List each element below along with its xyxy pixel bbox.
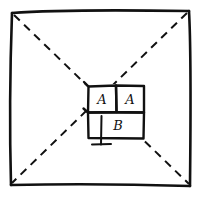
cell-a-left-label: A bbox=[96, 92, 106, 107]
sketch-canvas: A A B bbox=[0, 0, 201, 199]
outer-frame-bottom-edge bbox=[11, 184, 190, 186]
cell-a-right-label: A bbox=[124, 92, 134, 107]
outer-frame-top-edge bbox=[12, 11, 189, 13]
cell-group-corner-tick-top bbox=[84, 82, 89, 87]
outer-frame-left-edge bbox=[10, 13, 12, 185]
outer-frame-right-edge bbox=[189, 11, 191, 186]
ground-stem-line bbox=[101, 116, 102, 145]
sketch-drawing: A A B bbox=[0, 0, 201, 199]
cell-b-label: B bbox=[112, 118, 123, 133]
ground-base-line bbox=[92, 144, 111, 145]
